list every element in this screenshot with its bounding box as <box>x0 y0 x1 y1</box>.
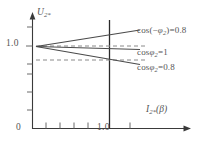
x-axis-title: I2*(β) <box>146 105 167 116</box>
y-axis-arrow <box>30 12 36 20</box>
series-label-lagging-close: =0.8 <box>158 62 175 72</box>
x-tick-label-1: 1.0 <box>97 123 110 133</box>
series-label-leading-close: )=0.8 <box>166 25 186 35</box>
external-characteristic-chart: U2* I2*(β) 1.0 0 1.0 cos(−φ2)=0.8 cosφ2=… <box>0 0 205 151</box>
series-line-leading <box>36 30 140 47</box>
x-axis-title-sub: 2* <box>149 108 156 115</box>
series-label-lagging: cosφ2=0.8 <box>137 63 175 73</box>
series-label-leading-cos: cos(− <box>137 25 158 35</box>
series-label-unity-cos: cos <box>137 47 149 57</box>
y-axis-title-sub: 2* <box>44 11 51 18</box>
y-axis-title-main: U <box>37 7 44 17</box>
series-label-unity-close: =1 <box>158 47 168 57</box>
y-tick-label-1: 1.0 <box>6 39 19 49</box>
origin-label: 0 <box>16 123 21 133</box>
series-label-unity: cosφ2=1 <box>137 48 168 58</box>
series-label-lagging-cos: cos <box>137 62 149 72</box>
series-label-leading: cos(−φ2)=0.8 <box>137 26 186 36</box>
x-axis-title-paren-close: ) <box>164 104 167 114</box>
x-axis-arrow <box>184 126 192 132</box>
y-axis-title: U2* <box>37 8 51 19</box>
